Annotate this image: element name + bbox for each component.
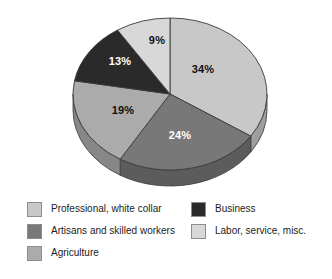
legend-item[interactable]: Business xyxy=(191,198,331,220)
legend-color-swatch xyxy=(27,246,42,261)
legend-column-right: BusinessLabor, service, misc. xyxy=(191,198,331,242)
legend-item[interactable]: Artisans and skilled workers xyxy=(27,220,187,242)
legend-item[interactable]: Professional, white collar xyxy=(27,198,187,220)
legend-item-label: Artisans and skilled workers xyxy=(51,226,175,236)
pie-top-slices xyxy=(73,18,267,170)
legend-column-left: Professional, white collarArtisans and s… xyxy=(27,198,187,264)
pie-slice-data-label: 34% xyxy=(192,63,215,75)
pie-svg: 34%24%19%13%9% xyxy=(0,0,332,198)
legend-item-label: Labor, service, misc. xyxy=(215,226,306,236)
legend-item-label: Business xyxy=(215,204,256,214)
legend-color-swatch xyxy=(27,224,42,239)
legend-color-swatch xyxy=(191,224,206,239)
pie-chart-figure: 34%24%19%13%9% Professional, white colla… xyxy=(0,0,332,279)
legend-item[interactable]: Agriculture xyxy=(27,242,187,264)
legend-color-swatch xyxy=(27,202,42,217)
pie-slice-data-label: 19% xyxy=(112,104,135,116)
legend-item-label: Agriculture xyxy=(51,248,99,258)
pie-slice-data-label: 24% xyxy=(169,129,192,141)
legend-item[interactable]: Labor, service, misc. xyxy=(191,220,331,242)
pie-slice-data-label: 9% xyxy=(149,34,165,46)
legend-item-label: Professional, white collar xyxy=(51,204,162,214)
pie-slice-data-label: 13% xyxy=(109,55,132,67)
chart-legend: Professional, white collarArtisans and s… xyxy=(0,198,332,279)
legend-color-swatch xyxy=(191,202,206,217)
pie-chart-plot: 34%24%19%13%9% xyxy=(0,0,332,198)
